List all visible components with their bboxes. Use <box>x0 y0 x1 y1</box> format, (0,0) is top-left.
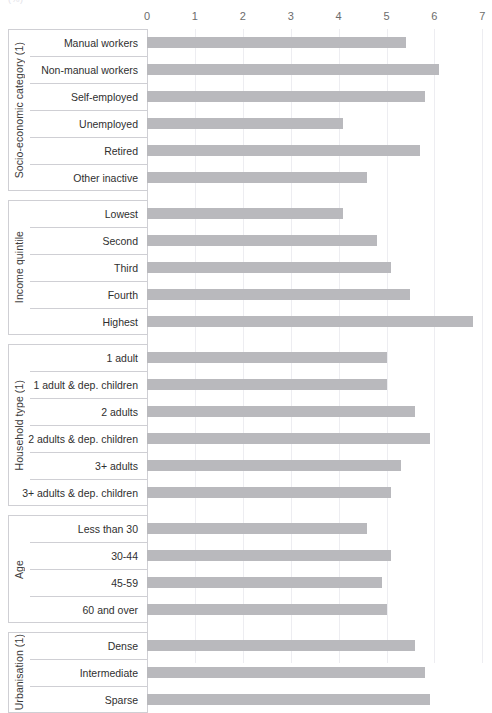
chart-group: Household type (1)1 adult1 adult & dep. … <box>0 344 492 506</box>
chart-row: Intermediate <box>0 659 492 686</box>
x-axis-tick-labels: 01234567 <box>0 10 492 28</box>
x-tick-label: 6 <box>431 10 437 22</box>
bar <box>147 694 430 705</box>
x-tick-label: 1 <box>192 10 198 22</box>
bar <box>147 577 382 588</box>
chart-row: 1 adult & dep. children <box>0 371 492 398</box>
bar <box>147 640 415 651</box>
chart-row: Third <box>0 254 492 281</box>
chart-group: AgeLess than 3030-4445-5960 and over <box>0 515 492 623</box>
x-tick-label: 5 <box>383 10 389 22</box>
bar <box>147 667 425 678</box>
bar <box>147 604 387 615</box>
bar <box>147 172 367 183</box>
bar <box>147 523 367 534</box>
chart-row: Fourth <box>0 281 492 308</box>
bar <box>147 316 473 327</box>
bar <box>147 433 430 444</box>
chart-row: Self-employed <box>0 83 492 110</box>
chart-row: 3+ adults <box>0 452 492 479</box>
chart-row: Dense <box>0 632 492 659</box>
category-label: Self-employed <box>30 83 144 110</box>
bar <box>147 235 377 246</box>
bar <box>147 262 391 273</box>
category-label: Non-manual workers <box>30 56 144 83</box>
chart-row: 2 adults & dep. children <box>0 425 492 452</box>
chart-group: Income quintileLowestSecondThirdFourthHi… <box>0 200 492 335</box>
chart-row: 2 adults <box>0 398 492 425</box>
category-label: Intermediate <box>30 659 144 686</box>
category-label: Manual workers <box>30 29 144 56</box>
category-label: Lowest <box>30 200 144 227</box>
chart-row: Highest <box>0 308 492 335</box>
category-label: Second <box>30 227 144 254</box>
chart-row: 1 adult <box>0 344 492 371</box>
chart-row: 30-44 <box>0 542 492 569</box>
chart-row: Non-manual workers <box>0 56 492 83</box>
category-label: Retired <box>30 137 144 164</box>
chart-row: 3+ adults & dep. children <box>0 479 492 506</box>
x-tick-label: 7 <box>479 10 485 22</box>
category-label: 1 adult & dep. children <box>30 371 144 398</box>
category-label: 1 adult <box>30 344 144 371</box>
chart-row: Sparse <box>0 686 492 713</box>
category-label: 45-59 <box>30 569 144 596</box>
category-label: 2 adults <box>30 398 144 425</box>
unit-label: (%) <box>8 0 24 4</box>
x-tick-label: 4 <box>336 10 342 22</box>
category-label: 30-44 <box>30 542 144 569</box>
chart-row: Unemployed <box>0 110 492 137</box>
category-label: 3+ adults <box>30 452 144 479</box>
x-tick-label: 3 <box>288 10 294 22</box>
chart-row: Retired <box>0 137 492 164</box>
bar <box>147 460 401 471</box>
category-label: 60 and over <box>30 596 144 623</box>
chart-row: Other inactive <box>0 164 492 191</box>
category-label: Third <box>30 254 144 281</box>
chart-row: Lowest <box>0 200 492 227</box>
bar <box>147 118 343 129</box>
category-label: Other inactive <box>30 164 144 191</box>
bar <box>147 208 343 219</box>
bar <box>147 289 410 300</box>
category-label: Sparse <box>30 686 144 713</box>
bar <box>147 352 387 363</box>
chart-row: Manual workers <box>0 29 492 56</box>
category-label: Fourth <box>30 281 144 308</box>
chart-group: Urbanisation (1)DenseIntermediateSparse <box>0 632 492 713</box>
chart-row: Less than 30 <box>0 515 492 542</box>
bar <box>147 37 406 48</box>
bar <box>147 406 415 417</box>
category-label: Dense <box>30 632 144 659</box>
category-label: 2 adults & dep. children <box>30 425 144 452</box>
bar <box>147 145 420 156</box>
chart-group: Socio-economic category (1)Manual worker… <box>0 29 492 191</box>
chart-row: 45-59 <box>0 569 492 596</box>
bar <box>147 64 439 75</box>
category-label: Highest <box>30 308 144 335</box>
chart-row: Second <box>0 227 492 254</box>
bar <box>147 487 391 498</box>
x-tick-label: 0 <box>144 10 150 22</box>
bar <box>147 379 387 390</box>
bar <box>147 550 391 561</box>
bar <box>147 91 425 102</box>
x-tick-label: 2 <box>240 10 246 22</box>
chart-row: 60 and over <box>0 596 492 623</box>
category-label: Unemployed <box>30 110 144 137</box>
category-label: 3+ adults & dep. children <box>30 479 144 506</box>
category-label: Less than 30 <box>30 515 144 542</box>
